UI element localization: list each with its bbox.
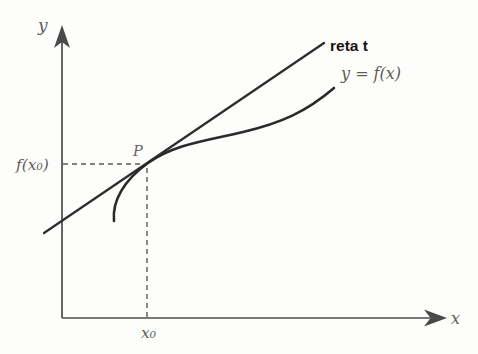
function-curve [114, 88, 334, 221]
curve-label: y = f(x) [340, 64, 401, 83]
y-axis-label: y [37, 15, 48, 35]
point-p-label: P [132, 143, 143, 159]
x0-value-label: x₀ [141, 324, 157, 342]
diagram-canvas: y x reta t y = f(x) P f(x₀) x₀ [0, 0, 478, 354]
tangent-line-diagram: y x reta t y = f(x) P f(x₀) x₀ [0, 0, 478, 354]
tangent-line [44, 43, 324, 233]
fx0-value-label: f(x₀) [15, 156, 49, 174]
tangent-line-label: reta t [330, 37, 368, 54]
x-axis-label: x [451, 309, 460, 328]
